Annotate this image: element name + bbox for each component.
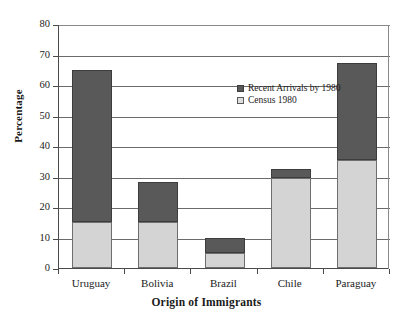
x-tick-label-chile: Chile xyxy=(257,277,323,289)
bar-segment-census-chile[interactable] xyxy=(271,178,311,268)
legend-label-census: Census 1980 xyxy=(248,94,297,106)
x-tick-mark-2 xyxy=(190,269,191,274)
legend-item-census: Census 1980 xyxy=(237,94,341,106)
y-tick-label-70: 70 xyxy=(10,50,50,61)
bar-segment-recent-paraguay[interactable] xyxy=(337,63,377,160)
legend-label-recent: Recent Arrivals by 1980 xyxy=(248,82,341,94)
bar-segment-recent-chile[interactable] xyxy=(271,169,311,178)
chart-legend: Recent Arrivals by 1980 Census 1980 xyxy=(237,82,341,106)
plot-area: Recent Arrivals by 1980 Census 1980 xyxy=(58,25,389,269)
y-tick-label-30: 30 xyxy=(10,172,50,183)
x-tick-label-paraguay: Paraguay xyxy=(323,277,389,289)
x-tick-mark-1 xyxy=(124,269,125,274)
gridline-70 xyxy=(59,56,390,57)
bar-uruguay[interactable] xyxy=(72,70,112,268)
bar-segment-census-paraguay[interactable] xyxy=(337,160,377,268)
legend-swatch-recent-icon xyxy=(237,85,244,92)
bar-segment-recent-brazil[interactable] xyxy=(205,238,245,253)
x-tick-mark-5 xyxy=(389,269,390,274)
bar-segment-census-uruguay[interactable] xyxy=(72,222,112,268)
plot-right-edge xyxy=(388,25,389,269)
x-tick-mark-0 xyxy=(58,269,59,274)
bar-segment-census-bolivia[interactable] xyxy=(138,222,178,268)
x-tick-label-uruguay: Uruguay xyxy=(58,277,124,289)
y-tick-label-0: 0 xyxy=(10,263,50,274)
bar-bolivia[interactable] xyxy=(138,182,178,268)
legend-item-recent-arrivals: Recent Arrivals by 1980 xyxy=(237,82,341,94)
stacked-bar-chart: Percentage 80706050403020100 Recent Arri… xyxy=(0,0,413,321)
x-tick-mark-3 xyxy=(257,269,258,274)
bar-brazil[interactable] xyxy=(205,238,245,269)
gridline-80 xyxy=(59,25,390,26)
y-tick-label-40: 40 xyxy=(10,141,50,152)
bar-chile[interactable] xyxy=(271,169,311,268)
bar-segment-recent-bolivia[interactable] xyxy=(138,182,178,222)
x-tick-label-bolivia: Bolivia xyxy=(124,277,190,289)
y-tick-label-50: 50 xyxy=(10,111,50,122)
legend-swatch-census-icon xyxy=(237,97,244,104)
y-tick-label-60: 60 xyxy=(10,80,50,91)
x-tick-label-brazil: Brazil xyxy=(190,277,256,289)
bar-segment-census-brazil[interactable] xyxy=(205,253,245,268)
y-tick-label-80: 80 xyxy=(10,19,50,30)
bar-segment-recent-uruguay[interactable] xyxy=(72,70,112,223)
x-axis-title: Origin of Immigrants xyxy=(0,296,413,308)
y-tick-label-20: 20 xyxy=(10,202,50,213)
bar-paraguay[interactable] xyxy=(337,63,377,268)
x-tick-mark-4 xyxy=(323,269,324,274)
y-tick-label-10: 10 xyxy=(10,233,50,244)
